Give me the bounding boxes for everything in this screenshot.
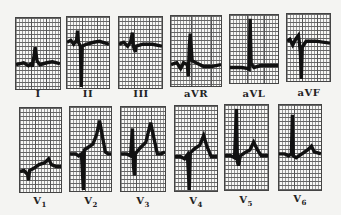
lead-aVF-strip — [286, 13, 331, 82]
lead-V5-label: V5 — [226, 194, 266, 208]
lead-aVR-trace — [171, 16, 221, 86]
lead-aVL-label: aVL — [234, 88, 274, 99]
lead-V1-trace — [20, 108, 61, 192]
lead-aVL-strip — [229, 14, 279, 84]
lead-V4-label: V4 — [176, 195, 216, 209]
lead-V4-strip — [174, 105, 218, 192]
lead-aVF-trace — [287, 14, 330, 81]
lead-V4-trace — [175, 106, 217, 191]
lead-III-label: III — [121, 88, 161, 99]
lead-II-strip — [66, 16, 110, 89]
lead-III-trace — [119, 17, 162, 88]
lead-V1-strip — [19, 107, 62, 193]
lead-III-strip — [118, 16, 163, 89]
lead-aVR-strip — [170, 15, 222, 87]
lead-I-strip — [15, 17, 61, 90]
lead-I-trace — [16, 18, 60, 89]
lead-V3-strip — [120, 106, 166, 192]
lead-V6-strip — [278, 104, 322, 191]
lead-V2-trace — [70, 107, 111, 191]
lead-I-label: I — [18, 88, 58, 99]
lead-aVR-label: aVR — [176, 88, 216, 99]
lead-V1-label: V1 — [20, 195, 60, 209]
lead-V5-strip — [224, 104, 269, 191]
lead-V2-label: V2 — [71, 195, 111, 209]
lead-V3-label: V3 — [123, 195, 163, 209]
lead-aVF-label: aVF — [289, 87, 329, 98]
lead-V3-trace — [121, 107, 165, 191]
lead-V6-label: V6 — [280, 193, 320, 207]
lead-aVL-trace — [230, 15, 278, 83]
lead-V5-trace — [225, 105, 268, 190]
lead-V6-trace — [279, 105, 321, 190]
lead-II-trace — [67, 17, 109, 88]
lead-V2-strip — [69, 106, 112, 192]
lead-II-label: II — [68, 88, 108, 99]
